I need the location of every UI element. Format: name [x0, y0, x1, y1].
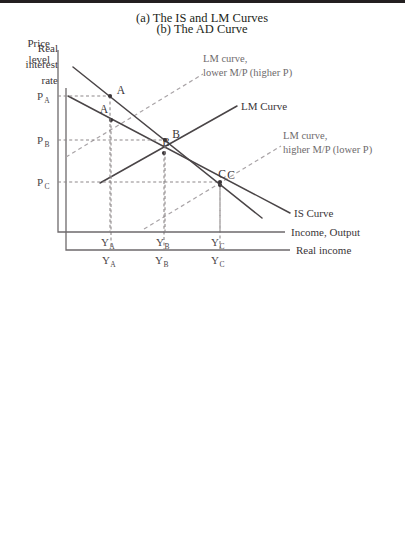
panel-b-y-axis-label-line1: Price [27, 37, 50, 49]
ad-curve [73, 67, 262, 218]
panel-b-xtick-b: Y [156, 236, 164, 248]
panel-b-xtick-c-sub: C [219, 242, 224, 251]
panel-b-point-a-label: A [117, 84, 126, 96]
figure-container: (a) The IS and LM Curves Real interest r… [0, 0, 405, 537]
panel-b-axes [58, 50, 285, 232]
panel-b-point-a-dot [108, 94, 112, 98]
panel-b-chart: (b) The AD Curve Price level Income, Out… [0, 0, 405, 267]
panel-b-xtick-a: Y [101, 236, 109, 248]
panel-b-point-b-label: B [172, 128, 180, 140]
panel-b-xtick-c: Y [211, 236, 219, 248]
panel-b-point-c-label: C [227, 169, 235, 181]
panel-b-title: (b) The AD Curve [156, 22, 248, 36]
panel-b-point-b-dot [163, 138, 167, 142]
panel-b-ytick-c-sub: C [44, 182, 49, 191]
panel-b-ytick-c: P [37, 176, 43, 188]
panel-b-point-c-dot [218, 180, 222, 184]
panel-b-xtick-a-sub: A [109, 242, 115, 251]
panel-b-ytick-b-sub: B [44, 140, 49, 149]
panel-b-x-axis-label: Income, Output [291, 226, 360, 238]
panel-b-y-axis-label-line2: level [29, 53, 50, 65]
panel-b-ytick-a-sub: A [44, 96, 50, 105]
panel-b-ytick-a: P [37, 90, 43, 102]
panel-b-ytick-b: P [37, 134, 43, 146]
panel-b-xtick-b-sub: B [164, 242, 169, 251]
